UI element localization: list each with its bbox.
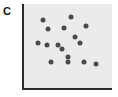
data-point — [49, 60, 54, 65]
data-point — [46, 27, 51, 32]
x-axis-line — [22, 88, 112, 90]
data-point — [41, 18, 46, 23]
data-point — [82, 60, 87, 65]
data-point — [62, 26, 67, 31]
y-axis-line — [22, 4, 24, 90]
data-point — [84, 24, 89, 29]
data-point — [60, 47, 65, 52]
data-point — [66, 60, 71, 65]
data-point — [73, 35, 78, 40]
scatter-plot-figure: C — [0, 0, 118, 97]
data-point — [78, 41, 83, 46]
panel-label: C — [3, 5, 11, 17]
data-point — [94, 62, 99, 67]
data-point — [36, 41, 41, 46]
data-point — [69, 15, 74, 20]
data-point — [45, 43, 50, 48]
plot-area — [23, 4, 112, 89]
